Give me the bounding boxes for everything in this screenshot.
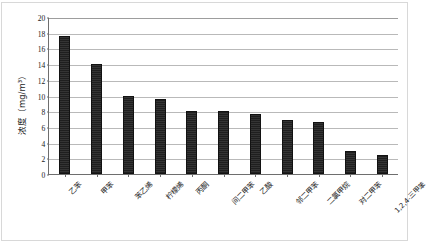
y-tick-label: 20 xyxy=(38,14,45,23)
x-tick-mark xyxy=(192,174,193,177)
x-tick-mark xyxy=(224,174,225,177)
x-label-slot: 1,2,4-三甲苯 xyxy=(366,178,398,242)
bar xyxy=(282,120,293,174)
plot-area: 20181614121086420 xyxy=(48,18,398,175)
bar-slot xyxy=(239,18,271,174)
x-label-slot: 对二甲苯 xyxy=(334,178,366,242)
bar-slot xyxy=(176,18,208,174)
bar-slot xyxy=(335,18,367,174)
x-label-slot: 柠檬烯 xyxy=(143,178,175,242)
x-label-slot: 苯乙烯 xyxy=(112,178,144,242)
bar-slot xyxy=(144,18,176,174)
y-tick-label: 12 xyxy=(38,76,45,85)
bar-slot xyxy=(303,18,335,174)
x-label-slot: 二氯甲烷 xyxy=(303,178,335,242)
bar xyxy=(377,155,388,174)
bar-slot xyxy=(81,18,113,174)
x-label-slot: 邻二甲苯 xyxy=(271,178,303,242)
x-tick-mark xyxy=(97,174,98,177)
y-tick-mark xyxy=(47,175,50,176)
y-tick-label: 10 xyxy=(38,92,45,101)
x-tick-mark xyxy=(160,174,161,177)
bar xyxy=(345,151,356,174)
y-tick-label: 0 xyxy=(41,171,45,180)
y-tick-label: 2 xyxy=(41,155,45,164)
x-tick-mark xyxy=(319,174,320,177)
bar xyxy=(186,111,197,174)
bar-slot xyxy=(112,18,144,174)
bar-slot xyxy=(271,18,303,174)
y-tick-label: 14 xyxy=(38,61,45,70)
x-tick-mark xyxy=(350,174,351,177)
y-tick-label: 8 xyxy=(41,108,45,117)
x-label-slot: 间二甲苯 xyxy=(207,178,239,242)
bar xyxy=(218,111,229,174)
y-tick-label: 6 xyxy=(41,123,45,132)
bar xyxy=(155,99,166,174)
bar-slot xyxy=(208,18,240,174)
x-tick-mark xyxy=(255,174,256,177)
bar-slot xyxy=(366,18,398,174)
bar xyxy=(91,64,102,174)
x-label-slot: 乙酸 xyxy=(239,178,271,242)
x-tick-label: 1,2,4-三甲苯 xyxy=(392,179,428,215)
y-tick-label: 16 xyxy=(38,45,45,54)
y-tick-label: 4 xyxy=(41,139,45,148)
x-axis-labels: 乙苯甲苯苯乙烯柠檬烯丙酮间二甲苯乙酸邻二甲苯二氯甲烷对二甲苯1,2,4-三甲苯 xyxy=(48,178,398,242)
bar xyxy=(250,114,261,174)
y-tick-label: 18 xyxy=(38,29,45,38)
x-tick-mark xyxy=(128,174,129,177)
x-label-slot: 丙酮 xyxy=(175,178,207,242)
bar xyxy=(59,36,70,174)
bar xyxy=(123,96,134,174)
bar xyxy=(313,122,324,174)
x-tick-mark xyxy=(287,174,288,177)
bar-series xyxy=(49,18,398,174)
x-tick-mark xyxy=(65,174,66,177)
x-label-slot: 甲苯 xyxy=(80,178,112,242)
x-label-slot: 乙苯 xyxy=(48,178,80,242)
bar-slot xyxy=(49,18,81,174)
x-tick-mark xyxy=(382,174,383,177)
